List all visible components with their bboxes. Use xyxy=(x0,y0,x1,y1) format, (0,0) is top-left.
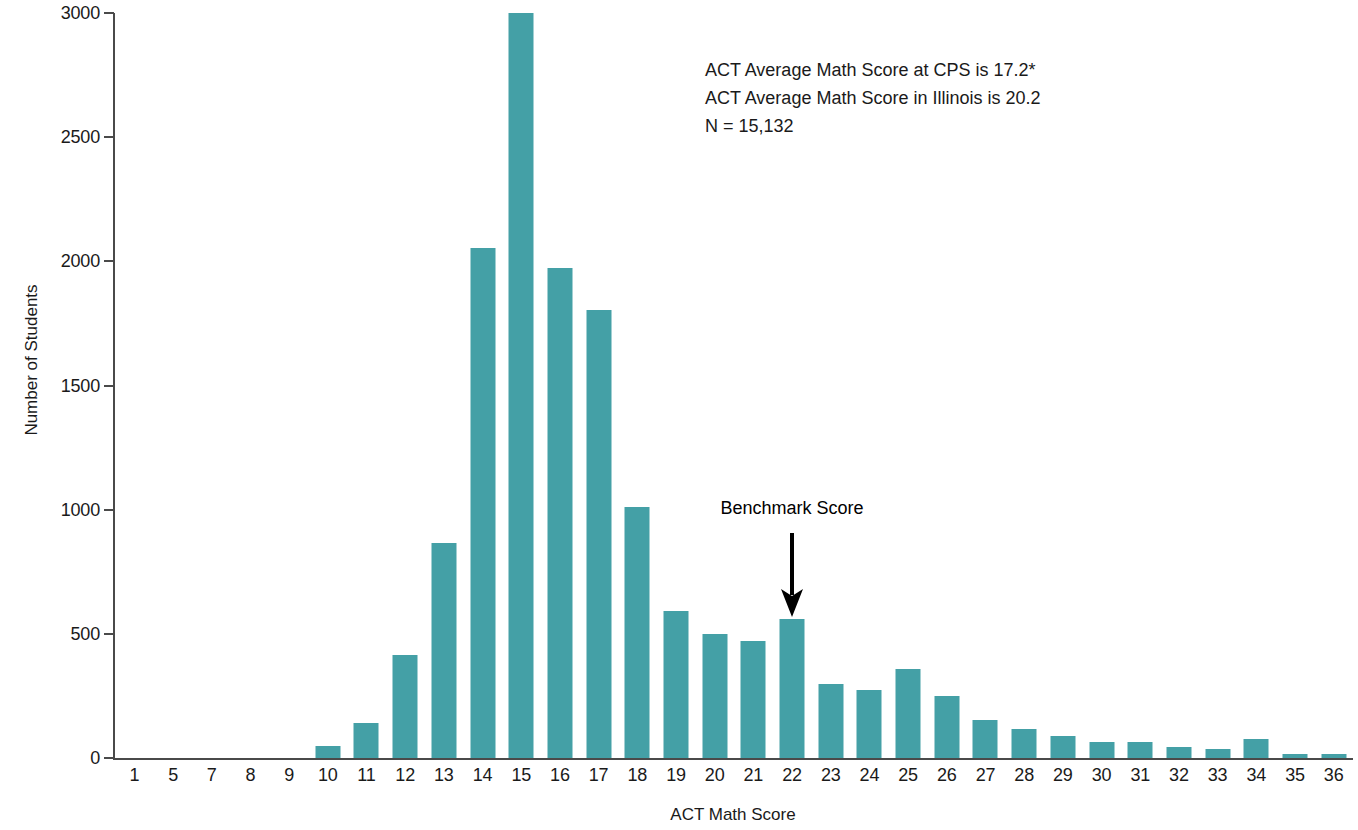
x-axis-tick-label: 27 xyxy=(966,766,1005,784)
stats-line-illinois: ACT Average Math Score in Illinois is 20… xyxy=(705,85,1041,113)
benchmark-arrow-icon xyxy=(779,533,805,617)
bar[interactable] xyxy=(702,634,727,758)
bar[interactable] xyxy=(896,669,921,758)
x-axis-tick-label: 36 xyxy=(1314,766,1353,784)
x-axis-tick-label: 23 xyxy=(811,766,850,784)
x-axis-tick-label: 12 xyxy=(386,766,425,784)
x-axis-tick-label: 28 xyxy=(1005,766,1044,784)
bar-slot xyxy=(270,13,309,758)
x-axis-tick-label: 25 xyxy=(889,766,928,784)
x-axis-tick-label: 7 xyxy=(192,766,231,784)
y-axis-title: Number of Students xyxy=(22,250,42,470)
bar[interactable] xyxy=(973,720,998,758)
y-axis-tick-label-wrap: 3000 xyxy=(0,4,100,22)
bar[interactable] xyxy=(509,13,534,758)
bar-slot xyxy=(192,13,231,758)
bar[interactable] xyxy=(625,507,650,758)
bar[interactable] xyxy=(586,310,611,758)
bar-slot xyxy=(386,13,425,758)
x-axis-tick-label: 10 xyxy=(308,766,347,784)
y-axis-tick xyxy=(104,136,114,138)
bar[interactable] xyxy=(1012,729,1037,758)
x-axis-tick-label: 32 xyxy=(1160,766,1199,784)
x-axis-tick-label: 26 xyxy=(927,766,966,784)
bar-slot xyxy=(1044,13,1083,758)
bar-slot xyxy=(1237,13,1276,758)
bar[interactable] xyxy=(1244,739,1269,758)
x-axis-tick-label: 17 xyxy=(579,766,618,784)
x-axis-tick-label: 19 xyxy=(657,766,696,784)
x-axis-tick-label: 1 xyxy=(115,766,154,784)
x-axis-tick-label: 20 xyxy=(695,766,734,784)
bar[interactable] xyxy=(1089,742,1114,758)
y-axis-tick xyxy=(104,633,114,635)
bar-slot xyxy=(579,13,618,758)
bar[interactable] xyxy=(663,611,688,758)
y-axis-tick-label-wrap: 2500 xyxy=(0,128,100,146)
y-axis-tick-label-wrap: 1500 xyxy=(0,377,100,395)
y-axis-tick-label-wrap: 1000 xyxy=(0,501,100,519)
bar-slot xyxy=(1276,13,1315,758)
benchmark-label: Benchmark Score xyxy=(697,498,887,519)
bar[interactable] xyxy=(431,543,456,758)
bar[interactable] xyxy=(1128,742,1153,758)
y-axis-tick xyxy=(104,509,114,511)
bar-slot xyxy=(231,13,270,758)
bar[interactable] xyxy=(934,696,959,758)
y-axis-tick-label: 0 xyxy=(36,749,100,767)
bar-slot xyxy=(425,13,464,758)
bar[interactable] xyxy=(780,619,805,758)
y-axis-tick-label: 1000 xyxy=(36,501,100,519)
x-axis-tick-label: 31 xyxy=(1121,766,1160,784)
stats-line-n: N = 15,132 xyxy=(705,113,1041,141)
x-axis-tick-label: 21 xyxy=(734,766,773,784)
act-math-score-histogram: 050010001500200025003000 Number of Stude… xyxy=(0,0,1358,830)
bar[interactable] xyxy=(857,690,882,758)
bar-slot xyxy=(1160,13,1199,758)
y-axis-tick xyxy=(104,260,114,262)
bar-slot xyxy=(1314,13,1353,758)
stats-annotation: ACT Average Math Score at CPS is 17.2* A… xyxy=(705,57,1041,141)
x-axis-tick-label: 22 xyxy=(773,766,812,784)
bar[interactable] xyxy=(818,684,843,759)
bar-slot xyxy=(463,13,502,758)
x-axis-tick-label: 8 xyxy=(231,766,270,784)
x-axis-tick-label: 35 xyxy=(1276,766,1315,784)
bar[interactable] xyxy=(741,641,766,758)
bar-slot xyxy=(1198,13,1237,758)
bar[interactable] xyxy=(547,268,572,758)
x-axis-tick-label: 24 xyxy=(850,766,889,784)
bar-slot xyxy=(1121,13,1160,758)
y-axis-tick-label: 1500 xyxy=(36,377,100,395)
bar-slot xyxy=(618,13,657,758)
bar[interactable] xyxy=(354,723,379,758)
y-axis-tick-label-wrap: 0 xyxy=(0,749,100,767)
bar-slot xyxy=(502,13,541,758)
x-axis-tick-label: 16 xyxy=(541,766,580,784)
x-axis-tick-label: 9 xyxy=(270,766,309,784)
benchmark-annotation: Benchmark Score xyxy=(697,498,887,519)
y-axis-tick xyxy=(104,12,114,14)
x-axis-tick-label: 5 xyxy=(154,766,193,784)
bar-slot xyxy=(308,13,347,758)
y-axis-tick-label-wrap: 2000 xyxy=(0,252,100,270)
bar[interactable] xyxy=(315,746,340,758)
y-axis-tick-label-wrap: 500 xyxy=(0,625,100,643)
bar[interactable] xyxy=(1050,736,1075,758)
bar-slot xyxy=(657,13,696,758)
x-axis-tick-label: 29 xyxy=(1044,766,1083,784)
x-axis-title: ACT Math Score xyxy=(113,805,1353,825)
bar[interactable] xyxy=(1166,747,1191,758)
x-axis-tick-label: 15 xyxy=(502,766,541,784)
y-axis-tick-label: 2500 xyxy=(36,128,100,146)
x-axis-tick-label: 11 xyxy=(347,766,386,784)
x-axis-tick-label: 13 xyxy=(425,766,464,784)
bar[interactable] xyxy=(1205,749,1230,758)
bar[interactable] xyxy=(393,655,418,758)
x-axis-tick-label: 18 xyxy=(618,766,657,784)
x-axis-tick-label: 14 xyxy=(463,766,502,784)
bar-slot xyxy=(347,13,386,758)
y-axis-tick xyxy=(104,385,114,387)
bar[interactable] xyxy=(470,248,495,758)
x-axis-tick-label: 30 xyxy=(1082,766,1121,784)
